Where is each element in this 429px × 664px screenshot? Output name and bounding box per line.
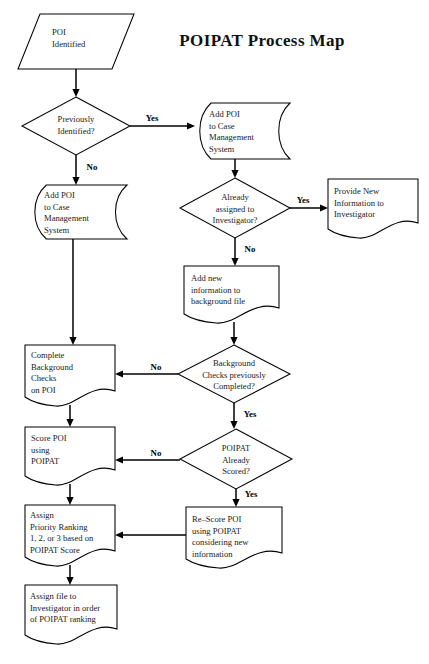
edge-label: Yes [245,489,258,499]
node-label: assigned to [216,204,254,214]
node-label: Checks previously [202,370,266,380]
flow-edge-scored-no: No [115,448,180,464]
edge-label: Yes [146,113,159,123]
flow-edge-scored-yes: Yes [232,489,258,507]
node-label: Priority Ranking [30,522,88,532]
flow-node-add-poi-right: Add POIto CaseManagementSystem [200,103,290,159]
flow-edge-rescore-to-assign [115,531,186,538]
arrowhead-icon [231,258,238,266]
flow-node-complete-background-checks: CompleteBackgroundCheckson POI [25,345,115,406]
node-label: information [192,549,233,559]
flow-edge-decision1-yes: Yes [130,113,195,130]
node-label: Management [209,132,254,142]
node-label: Management [44,213,89,223]
node-label: information to [191,285,240,295]
flow-node-add-new-info: Add newinformation tobackground file [184,266,279,323]
flow-edge-decision1-no: No [72,155,98,185]
node-label: Add POI [209,109,240,119]
node-label: Completed? [213,381,255,391]
edge-label: Yes [297,195,310,205]
arrowhead-icon [231,170,238,178]
node-label: Investigator [334,209,375,219]
arrowhead-icon [232,499,239,507]
flow-node-previously-identified: PreviouslyIdentified? [22,97,130,155]
node-label: Provide New [334,186,380,196]
node-label: Assign file to [30,591,76,601]
node-label: Identified? [57,126,94,136]
node-label: Background [31,362,74,372]
node-label: System [44,225,70,235]
node-label: POIPAT [222,443,251,453]
flow-edge-addpoi-right-to-assigned [231,159,238,178]
node-label: considering new [192,537,249,547]
flow-node-poipat-already-scored: POIPATAlreadyScored? [180,429,292,489]
flow-node-assign-priority-ranking: AssignPriority Ranking1, 2, or 3 based o… [25,505,115,566]
flow-edge-assigned-yes: Yes [290,195,328,212]
flow-edge-complete-to-score [66,405,73,427]
node-label: on POI [31,385,56,395]
flow-node-add-poi-left: Add POIto CaseManagementSystem [35,185,127,239]
arrowhead-icon [115,370,123,377]
node-label: System [209,144,235,154]
node-label: to Case [44,202,70,212]
node-label: POIPAT Score [30,545,80,555]
flow-node-score-poi: Score POIusingPOIPAT [25,427,115,485]
edge-label: No [87,162,98,172]
flow-node-provide-new-info: Provide NewInformation toInvestigator [328,179,418,238]
node-label: Checks [31,373,57,383]
nodes-layer: POIIdentifiedPreviouslyIdentified?Add PO… [18,14,418,644]
edge-label: No [151,448,162,458]
poipat-process-map-diagram: YesNoYesNoNoYesNoYes POIIdentifiedPrevio… [0,0,429,664]
arrowhead-icon [230,337,237,345]
node-label: Scored? [222,466,250,476]
flow-node-re-score-poi: Re–Score POIusing POIPATconsidering newi… [186,507,282,568]
node-label: Already [221,192,249,202]
node-label: using [31,445,50,455]
node-label: Assign [30,510,55,520]
flow-edge-bgcheck-no: No [115,362,178,378]
node-label: POIPAT [31,456,60,466]
flow-edge-assign-to-file [66,565,73,585]
node-label: 1, 2, or 3 based on [30,533,94,543]
node-label: Information to [334,198,384,208]
edge-label: Yes [244,409,257,419]
node-label: Add POI [44,190,75,200]
flow-edge-addpoi-left-to-bgchecks [69,239,76,345]
node-label: Add new [191,273,223,283]
node-label: to Case [209,121,235,131]
arrowhead-icon [72,177,79,185]
flow-node-already-assigned: Alreadyassigned toInvestigator? [180,178,290,238]
node-label: of POIPAT ranking [30,614,97,624]
node-label: POI [52,27,66,37]
flow-edge-poi-to-decision1 [72,69,79,97]
arrowhead-icon [230,421,237,429]
node-label: Already [222,455,250,465]
edge-label: No [245,244,256,254]
arrowhead-icon [66,497,73,505]
flow-edge-addnew-to-bgcheck [230,322,237,345]
arrowhead-icon [320,204,328,211]
arrowhead-icon [72,89,79,97]
node-label: Investigator? [213,215,258,225]
edge-label: No [151,362,162,372]
node-label: using POIPAT [192,526,242,536]
flowchart-canvas: YesNoYesNoNoYesNoYes POIIdentifiedPrevio… [0,0,429,664]
arrowhead-icon [115,456,123,463]
node-label: Re–Score POI [192,514,242,524]
node-label: Complete [31,350,65,360]
flow-node-background-checks-done: BackgroundChecks previouslyCompleted? [178,345,290,403]
node-label: Background [213,358,256,368]
node-label: Previously [58,114,95,124]
flow-edge-score-to-assign [66,484,73,505]
arrowhead-icon [115,531,123,538]
arrowhead-icon [187,122,195,129]
node-label: Identified [52,39,86,49]
arrowhead-icon [66,419,73,427]
flow-edge-assigned-no: No [231,238,256,266]
arrowhead-icon [66,577,73,585]
page-title: POIPAT Process Map [179,31,345,50]
flow-node-poi-identified: POIIdentified [18,14,134,69]
node-label: background file [191,296,245,306]
node-label: Score POI [31,433,67,443]
node-label: Investigator in order [30,603,100,613]
